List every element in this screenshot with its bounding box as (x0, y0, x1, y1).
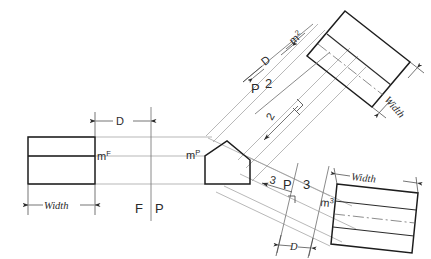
projector-aux2-d (246, 56, 358, 168)
dimension-d-upper-label: D (259, 53, 273, 67)
dimension-d-left-label: D (116, 115, 124, 127)
fold-label-p-upper: P (251, 81, 260, 96)
fold-label-f: F (135, 201, 143, 216)
label-m-front: mF (97, 149, 111, 162)
dimension-d-lower-label: D (289, 241, 298, 252)
dimension-width-lower-label: Width (351, 171, 377, 185)
projection-lines-group (28, 24, 366, 246)
auxiliary-view-3-rectangle (331, 184, 418, 253)
front-view-rectangle (28, 137, 95, 184)
label-m-aux3: m3 (320, 195, 335, 209)
direction-arrow-3-label: 3 (269, 173, 278, 186)
dimension-width-lower (334, 168, 418, 193)
dimension-width-left-label: Width (44, 200, 69, 211)
fold-label-2: 2 (265, 76, 272, 91)
drawing-sheet: D Width mF mP m2 m3 F P P 2 P 3 D (0, 0, 431, 259)
auxiliary-view-2-rectangle (307, 11, 410, 107)
label-m-profile: mP (186, 148, 200, 161)
projector-aux2-c (238, 48, 350, 160)
fold-label-3: 3 (303, 177, 310, 192)
direction-arrow-2-label: 2 (263, 111, 276, 122)
fold-label-p-left: P (155, 201, 164, 216)
dimension-width-upper-label: Width (382, 94, 406, 120)
projector-aux2-a (206, 24, 318, 136)
